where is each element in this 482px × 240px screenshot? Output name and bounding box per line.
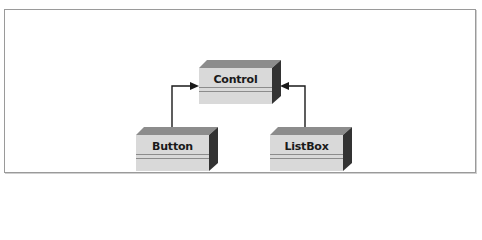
class-label: Button: [136, 140, 209, 153]
box-front-face: ListBox: [270, 135, 343, 171]
class-box-listbox: ListBox: [270, 127, 352, 171]
box-top-face: [199, 60, 281, 68]
arrow-button-to-control: [172, 82, 199, 128]
method-divider: [199, 91, 272, 92]
attribute-divider: [199, 87, 272, 88]
class-box-button: Button: [136, 127, 218, 171]
box-top-face: [136, 127, 218, 135]
attribute-divider: [136, 154, 209, 155]
class-box-control: Control: [199, 60, 281, 104]
box-side-face: [209, 127, 218, 171]
method-divider: [270, 158, 343, 159]
class-label: ListBox: [270, 140, 343, 153]
box-front-face: Button: [136, 135, 209, 171]
method-divider: [136, 158, 209, 159]
attribute-divider: [270, 154, 343, 155]
arrow-listbox-to-control: [280, 82, 305, 128]
box-side-face: [343, 127, 352, 171]
class-label: Control: [199, 73, 272, 86]
box-side-face: [272, 60, 281, 104]
box-front-face: Control: [199, 68, 272, 104]
box-top-face: [270, 127, 352, 135]
